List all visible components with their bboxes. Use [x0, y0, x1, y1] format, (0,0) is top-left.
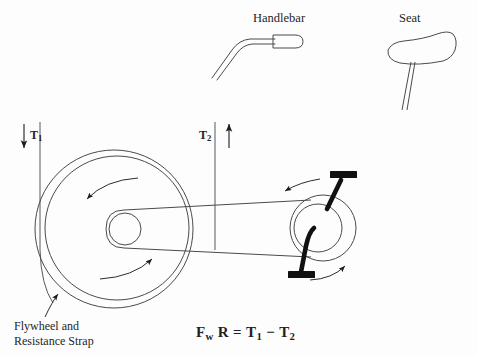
formula-radius: R: [218, 324, 229, 340]
resistance-strap-circle: [35, 150, 193, 308]
drive-belt: [106, 200, 311, 257]
tension-t1-label: T1: [30, 128, 42, 144]
flywheel-hub-graphic: [109, 213, 141, 245]
flywheel-hub-circle: [109, 213, 141, 245]
flywheel-caption-line1: Flywheel and: [14, 319, 94, 334]
diagram-vector-layer: [0, 0, 477, 355]
t2-symbol: T: [199, 128, 207, 142]
crank-arm-top: [327, 180, 341, 209]
handlebar-grip: [273, 35, 303, 48]
seat-graphic: [388, 32, 456, 110]
flywheel-graphic: [35, 150, 193, 308]
bike-mechanics-diagram: Handlebar Seat T1 T2 Flywheel and Resist…: [0, 0, 477, 355]
crank-arrow-lower: [310, 266, 345, 280]
crank-arm-bottom: [301, 228, 314, 272]
tension-t2-label: T2: [199, 128, 211, 144]
formula-t2: T: [279, 324, 289, 340]
crank-arms: [301, 180, 341, 272]
belt-lower-path: [106, 210, 311, 257]
handlebar-stem-lower: [217, 44, 275, 80]
flywheel-arrow-upper: [87, 178, 138, 199]
flywheel-caption: Flywheel and Resistance Strap: [14, 319, 94, 348]
handlebar-graphic: [212, 35, 303, 80]
pedal-top-bar: [330, 171, 357, 178]
pedal-bottom-bar: [288, 271, 315, 278]
formula-minus: −: [266, 324, 275, 340]
belt-upper-path: [124, 200, 311, 210]
formula-t1: T: [246, 324, 256, 340]
flywheel-leader-line: [45, 294, 58, 317]
seat-post-left: [402, 62, 411, 110]
handlebar-label: Handlebar: [253, 11, 305, 26]
formula-t1-subscript: 1: [256, 330, 262, 342]
formula-force-subscript: w: [206, 330, 214, 342]
crank-arrow-upper: [285, 179, 320, 191]
formula-t2-subscript: 2: [290, 330, 296, 342]
leader-stroke: [45, 294, 58, 317]
formula-force: F: [196, 324, 206, 340]
t1-subscript: 1: [38, 133, 42, 143]
flywheel-arrow-lower: [100, 259, 152, 279]
t2-subscript: 2: [207, 133, 211, 143]
seat-label: Seat: [399, 11, 421, 26]
flywheel-caption-line2: Resistance Strap: [14, 334, 94, 349]
formula-equals: =: [233, 324, 242, 340]
handlebar-stem-upper: [212, 39, 275, 78]
sprocket-inner-circle: [294, 204, 342, 252]
pedals: [288, 171, 357, 278]
torque-formula: FwR=T1−T2: [196, 323, 295, 343]
flywheel-rim: [45, 156, 189, 300]
seat-post-right: [407, 62, 415, 110]
flywheel-rotation-arrows: [87, 178, 152, 279]
crank-sprocket-graphic: [290, 195, 356, 261]
t1-symbol: T: [30, 128, 38, 142]
resistance-strap-lines: [40, 122, 215, 303]
seat-saddle: [388, 32, 456, 64]
